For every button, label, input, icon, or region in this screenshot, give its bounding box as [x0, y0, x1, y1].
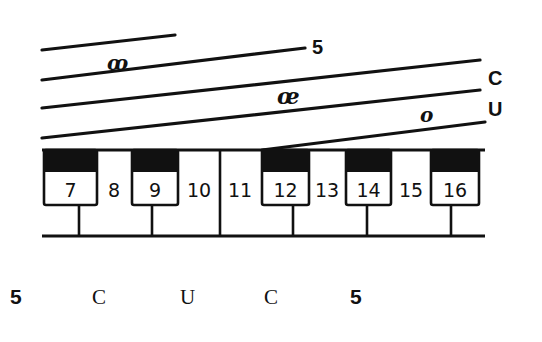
key-black-fill [346, 150, 391, 172]
gap-number-13: 13 [315, 179, 339, 201]
staff-label-line-u: U [488, 98, 502, 120]
key-number: 9 [149, 179, 161, 201]
black-key-12: 12 [262, 150, 309, 236]
staff-line-5 [42, 48, 305, 80]
black-key-16: 16 [431, 150, 479, 236]
key-number: 14 [356, 179, 380, 201]
bottom-label-3: C [264, 285, 278, 310]
script-mark-2: œ [277, 83, 300, 109]
key-number: 12 [273, 179, 297, 201]
black-key-14: 14 [346, 150, 391, 236]
gap-number-8: 8 [108, 179, 120, 201]
key-black-fill [431, 150, 479, 172]
staff-line-to-key-12 [262, 122, 485, 150]
staff-label-line-5: 5 [312, 36, 323, 58]
script-mark-3: o [420, 103, 433, 127]
key-number: 7 [64, 179, 76, 201]
gap-number-11: 11 [228, 179, 252, 201]
keyboard: 79121416810111315 [42, 150, 485, 236]
staff-label-line-c: C [488, 67, 502, 89]
bottom-label-2: U [180, 285, 195, 310]
key-black-fill [132, 150, 178, 172]
bottom-label-4: 5 [350, 285, 362, 309]
bottom-label-0: 5 [10, 285, 22, 309]
script-marks: ꝏœo [107, 51, 433, 127]
key-black-fill [262, 150, 309, 172]
black-key-7: 7 [44, 150, 97, 236]
key-number: 16 [443, 179, 467, 201]
staff-short-top [42, 35, 175, 50]
black-key-9: 9 [132, 150, 178, 236]
script-mark-1: ꝏ [107, 51, 128, 75]
bottom-label-1: C [92, 285, 106, 310]
gap-number-15: 15 [399, 179, 423, 201]
keyboard-diagram: 5CU ꝏœo 79121416810111315 5CUC5 [0, 0, 542, 342]
gap-number-10: 10 [187, 179, 211, 201]
key-black-fill [44, 150, 97, 172]
